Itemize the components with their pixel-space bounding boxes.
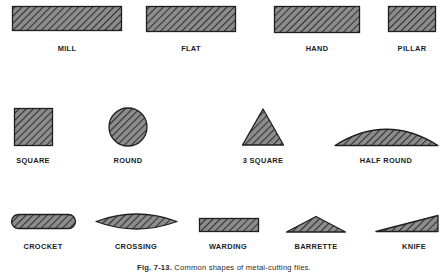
figure-caption: Fig. 7-13. Common shapes of metal-cuttin… — [137, 263, 311, 272]
shape-square — [15, 109, 53, 146]
label-round: ROUND — [114, 156, 143, 165]
shape-hand — [275, 7, 360, 33]
label-barrette: BARRETTE — [294, 242, 337, 251]
label-pillar: PILLAR — [398, 44, 427, 53]
caption-number: Fig. 7-13. — [137, 263, 172, 272]
label-3-square: 3 SQUARE — [243, 156, 284, 165]
label-flat: FLAT — [181, 44, 201, 53]
label-square: SQUARE — [16, 156, 50, 165]
shape-flat — [147, 7, 236, 32]
shape-pillar — [389, 7, 436, 32]
label-crossing: CROSSING — [115, 242, 157, 251]
shape-crocket — [12, 215, 76, 229]
label-warding: WARDING — [209, 242, 247, 251]
caption-text: Common shapes of metal-cutting files. — [174, 263, 311, 272]
label-mill: MILL — [58, 44, 77, 53]
label-crocket: CROCKET — [24, 242, 63, 251]
label-hand: HAND — [306, 44, 329, 53]
shape-warding — [200, 219, 259, 232]
label-half-round: HALF ROUND — [360, 156, 412, 165]
shape-mill — [13, 7, 122, 31]
shape-round — [109, 108, 147, 146]
label-knife: KNIFE — [402, 242, 426, 251]
